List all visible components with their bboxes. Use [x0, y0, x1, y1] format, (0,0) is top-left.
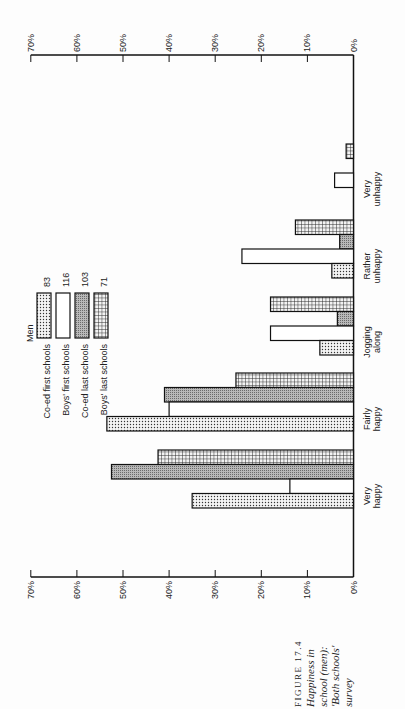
legend-swatch-dots	[37, 293, 51, 338]
bar-white	[169, 402, 353, 417]
bar-dots	[332, 264, 354, 279]
category-label: along	[372, 331, 382, 353]
caption-line: Happiness in	[304, 649, 316, 708]
legend-swatch-grid	[94, 293, 108, 338]
bar-grey	[340, 235, 354, 250]
axis-tick-label: 30%	[210, 581, 220, 599]
legend-count: 71	[99, 277, 109, 287]
bars	[107, 144, 354, 508]
axis-tick-label: 60%	[72, 581, 82, 599]
figure-page: 0%10%20%30%40%50%60%70%0%10%20%30%40%50%…	[0, 0, 405, 709]
category-label: Fairly	[362, 408, 372, 430]
legend-label: Boys' first schools	[61, 344, 71, 416]
bar-grey	[164, 388, 353, 403]
axis-tick-label: 10%	[302, 581, 312, 599]
category-label: Rather	[362, 252, 372, 279]
axis-tick-label: 70%	[26, 34, 36, 52]
figure-number: FIGURE 17.4	[293, 640, 303, 707]
bar-chart: 0%10%20%30%40%50%60%70%0%10%20%30%40%50%…	[0, 0, 405, 709]
bar-white	[271, 326, 354, 341]
legend: MenCo-ed first schools83Boys' first scho…	[25, 272, 109, 419]
axis-tick-label: 40%	[164, 34, 174, 52]
category-label: Very	[362, 179, 372, 198]
axis-tick-label: 70%	[26, 581, 36, 599]
axis-tick-label: 0%	[349, 581, 359, 594]
category-label: unhappy	[372, 248, 382, 283]
bar-white	[242, 249, 354, 264]
axis-tick-label: 50%	[118, 581, 128, 599]
bar-grid	[271, 297, 354, 312]
bar-white	[335, 173, 354, 188]
category-label: happy	[372, 483, 382, 508]
axis-tick-label: 20%	[256, 34, 266, 52]
category-label: Very	[362, 486, 372, 505]
bar-grey	[111, 465, 353, 480]
bar-grey	[337, 312, 353, 327]
axis-tick-label: 20%	[256, 581, 266, 599]
legend-swatch-white	[56, 293, 70, 338]
axis-tick-label: 30%	[210, 34, 220, 52]
caption-line: survey	[342, 678, 354, 707]
category-label: Jogging	[362, 326, 372, 358]
caption-line: school (men):	[317, 646, 330, 707]
legend-label: Co-ed last schools	[80, 344, 90, 419]
caption-line: 'Both schools'	[329, 645, 341, 707]
bar-dots	[107, 417, 354, 432]
axis-tick-label: 60%	[72, 34, 82, 52]
axis-tick-label: 40%	[164, 581, 174, 599]
bar-dots	[192, 494, 353, 509]
bar-dots	[320, 341, 354, 356]
category-label: happy	[372, 406, 382, 431]
legend-count: 83	[42, 277, 52, 287]
legend-count: 103	[80, 272, 90, 287]
category-label: unhappy	[372, 171, 382, 206]
category-labels: VeryhappyFairlyhappyJoggingalongRatherun…	[362, 171, 382, 508]
bar-grid	[346, 144, 353, 159]
legend-label: Boys' last schools	[99, 344, 109, 416]
bar-white	[290, 479, 354, 494]
axis-tick-label: 0%	[349, 39, 359, 52]
bar-grid	[236, 373, 354, 388]
axis-tick-label: 10%	[302, 34, 312, 52]
legend-count: 116	[61, 273, 71, 287]
axis-tick-label: 50%	[118, 34, 128, 52]
legend-label: Co-ed first schools	[42, 344, 52, 419]
bar-grid	[158, 450, 353, 465]
bar-grid	[295, 220, 353, 235]
legend-swatch-grey	[75, 293, 89, 338]
legend-title: Men	[25, 324, 35, 342]
figure-caption: FIGURE 17.4Happiness inschool (men):'Bot…	[293, 640, 354, 708]
